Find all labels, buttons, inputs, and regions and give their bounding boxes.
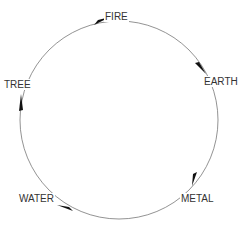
node-earth: EARTH [203, 76, 238, 87]
arrow-metal-to-water-icon [57, 205, 73, 211]
node-metal: METAL [180, 193, 215, 204]
five-elements-cycle-diagram: FIRE EARTH METAL WATER TREE [0, 0, 238, 240]
node-tree: TREE [3, 79, 32, 90]
cycle-circle [20, 21, 218, 219]
node-water: WATER [18, 193, 55, 204]
cycle-graphic [0, 0, 238, 240]
node-fire: FIRE [104, 11, 129, 22]
arrow-water-to-tree-icon [19, 94, 23, 111]
